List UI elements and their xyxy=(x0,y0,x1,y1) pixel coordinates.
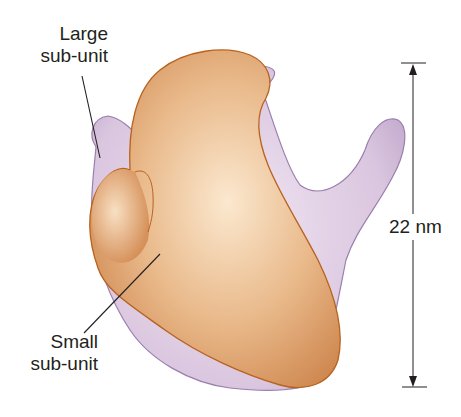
arrow-up-icon xyxy=(409,64,417,75)
small-subunit-label-line1: Small xyxy=(10,331,98,353)
large-subunit-label-line2: sub-unit xyxy=(20,45,108,67)
small-subunit-label: Small sub-unit xyxy=(10,331,98,375)
size-label: 22 nm xyxy=(389,214,442,240)
small-subunit-label-line2: sub-unit xyxy=(10,353,98,375)
large-subunit-label: Large sub-unit xyxy=(20,23,108,67)
large-subunit-leader xyxy=(82,76,100,158)
large-subunit-label-line1: Large xyxy=(20,23,108,45)
arrow-down-icon xyxy=(409,376,417,387)
